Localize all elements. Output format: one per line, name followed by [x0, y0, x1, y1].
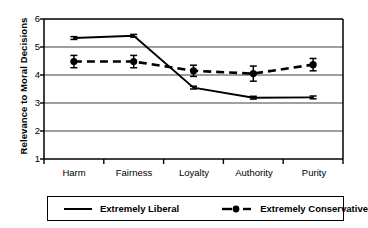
legend-label-conservative: Extremely Conservative: [260, 203, 368, 214]
x-tick-label-fairness: Fairness: [104, 168, 164, 178]
legend-item-conservative: Extremely Conservative: [221, 197, 368, 220]
x-tick-label-purity: Purity: [284, 168, 344, 178]
y-axis-title: Relevance to Moral Decisions: [17, 1, 31, 171]
y-tick-label-2: 2: [22, 126, 40, 136]
legend: Extremely Liberal Extremely Conservative: [47, 196, 344, 221]
legend-item-liberal: Extremely Liberal: [63, 197, 179, 220]
data-point-1-1: [130, 58, 137, 65]
chart-canvas: [44, 19, 343, 159]
data-series-group: [70, 34, 316, 99]
data-point-1-0: [70, 58, 77, 65]
x-tick-label-loyalty: Loyalty: [164, 168, 224, 178]
legend-label-liberal: Extremely Liberal: [100, 203, 179, 214]
y-tick-label-6: 6: [22, 14, 40, 24]
data-point-1-3: [250, 70, 257, 77]
data-point-1-2: [190, 67, 197, 74]
data-point-1-4: [310, 61, 317, 68]
plot-area: [44, 19, 343, 159]
legend-marker-dashed-circle: [221, 203, 253, 215]
y-tick-label-1: 1: [22, 154, 40, 164]
x-tick-label-authority: Authority: [224, 168, 284, 178]
y-tick-label-4: 4: [22, 70, 40, 80]
legend-marker-solid-line: [63, 203, 93, 215]
x-tick-label-harm: Harm: [44, 168, 104, 178]
y-tick-label-3: 3: [22, 98, 40, 108]
y-tick-label-5: 5: [22, 42, 40, 52]
